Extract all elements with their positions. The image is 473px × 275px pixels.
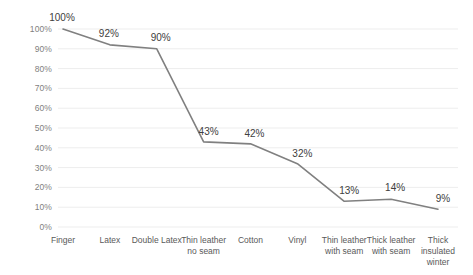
- y-axis-tick-label: 0%: [0, 222, 52, 232]
- x-axis-category-label: Latex: [84, 235, 136, 246]
- data-point-label: 92%: [92, 28, 126, 40]
- x-axis-category-label: Vinyl: [271, 235, 323, 246]
- data-point-label: 32%: [285, 148, 319, 160]
- x-axis-category-label: Finger: [37, 235, 89, 246]
- y-axis-tick-label: 90%: [0, 44, 52, 54]
- y-axis-tick-label: 60%: [0, 103, 52, 113]
- chart-plot-area: [0, 0, 473, 275]
- x-axis-category-label: Double Latex: [131, 235, 183, 246]
- y-axis-tick-label: 80%: [0, 64, 52, 74]
- y-axis-tick-label: 30%: [0, 163, 52, 173]
- y-axis-tick-label: 100%: [0, 24, 52, 34]
- y-axis-tick-label: 20%: [0, 182, 52, 192]
- y-axis-tick-label: 50%: [0, 123, 52, 133]
- line-chart: 0%10%20%30%40%50%60%70%80%90%100% Finger…: [0, 0, 473, 275]
- y-axis-tick-label: 10%: [0, 202, 52, 212]
- y-axis-tick-label: 70%: [0, 83, 52, 93]
- data-point-label: 9%: [426, 193, 460, 205]
- data-point-label: 42%: [238, 128, 272, 140]
- y-axis-tick-label: 40%: [0, 143, 52, 153]
- x-axis-category-label: Thick insulated winter: [412, 235, 464, 268]
- data-point-label: 43%: [192, 126, 226, 138]
- x-axis-category-label: Thin leather no seam: [178, 235, 230, 257]
- data-point-label: 90%: [144, 32, 178, 44]
- x-axis-category-label: Thin leather with seam: [318, 235, 370, 257]
- x-axis-category-label: Cotton: [225, 235, 277, 246]
- data-point-label: 14%: [378, 182, 412, 194]
- data-point-label: 13%: [332, 185, 366, 197]
- x-axis-category-label: Thick leather with seam: [365, 235, 417, 257]
- data-point-label: 100%: [45, 12, 79, 24]
